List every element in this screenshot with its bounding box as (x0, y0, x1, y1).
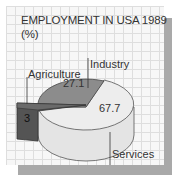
label-services: Services (112, 148, 154, 160)
value-agriculture: 3 (24, 112, 30, 124)
value-industry: 27.1 (63, 77, 84, 89)
label-industry: Industry (90, 58, 129, 70)
value-services: 67.7 (99, 102, 120, 114)
